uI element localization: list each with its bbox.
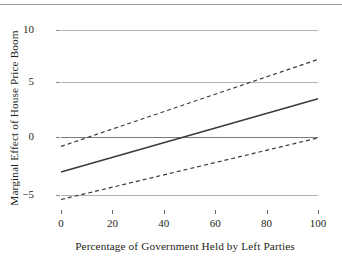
x-tick-label-0: 0 bbox=[41, 218, 81, 229]
y-tick-mark-5 bbox=[56, 82, 60, 83]
curves-layer bbox=[61, 18, 318, 208]
x-tick-label-80: 80 bbox=[247, 218, 287, 229]
upper-ci-line bbox=[61, 59, 318, 146]
x-tick-mark-40 bbox=[164, 210, 165, 214]
x-tick-label-60: 60 bbox=[195, 218, 235, 229]
y-tick-label-minus-5: −5 bbox=[0, 189, 34, 200]
y-tick-label-10: 10 bbox=[0, 24, 34, 35]
x-tick-mark-0 bbox=[61, 210, 62, 214]
x-tick-label-100: 100 bbox=[298, 218, 338, 229]
lower-ci-line bbox=[61, 138, 318, 200]
estimate-line bbox=[61, 99, 318, 172]
x-tick-mark-100 bbox=[318, 210, 319, 214]
y-tick-mark-minus-5 bbox=[56, 195, 60, 196]
x-tick-label-40: 40 bbox=[144, 218, 184, 229]
y-tick-mark-10 bbox=[56, 30, 60, 31]
y-tick-label-5: 5 bbox=[0, 76, 34, 87]
x-tick-label-20: 20 bbox=[92, 218, 132, 229]
marginal-effects-plot: Marginal Effect of House Price Boom 10 5… bbox=[0, 0, 342, 274]
x-axis-label: Percentage of Government Held by Left Pa… bbox=[40, 240, 330, 252]
x-axis-ticks: 0 20 40 60 80 100 bbox=[61, 210, 318, 236]
x-tick-mark-20 bbox=[112, 210, 113, 214]
top-border-rule bbox=[0, 4, 342, 5]
x-tick-mark-80 bbox=[267, 210, 268, 214]
y-tick-mark-0 bbox=[56, 137, 60, 138]
x-tick-mark-60 bbox=[215, 210, 216, 214]
y-tick-label-0: 0 bbox=[0, 131, 34, 142]
plot-area: 10 5 0 −5 bbox=[61, 18, 318, 208]
